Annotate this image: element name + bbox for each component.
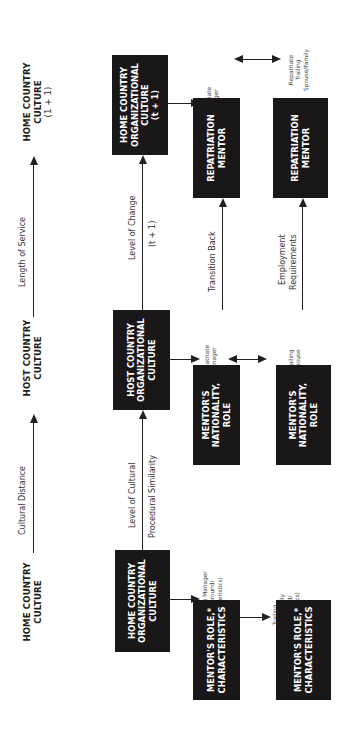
mentor-role-box-2: MENTOR'S ROLE,* CHARACTERISTICS [276,600,331,700]
time-plus-one-label: (t + 1) [148,221,158,247]
employment-requirements-arrow [302,206,303,310]
mentor-nat-2-line2: NATIONALITY, [298,383,308,447]
host-org-line3: CULTURE [147,339,157,381]
org-to-expat-arrow [170,599,192,600]
length-of-service-arrow [33,165,34,317]
requirements-label: Requirements [289,234,299,290]
cultural-distance-label: Cultural Distance [18,466,28,535]
mentor-role-2-line2: CHARACTERISTICS [304,607,314,694]
expatriate-mentoring-diagram: HOME COUNTRY CULTURE Cultural Distance H… [0,0,349,740]
home-org-next-line4: (t + 1) [150,90,160,120]
arrowhead-down-icon [191,356,200,364]
host-country-culture: HOST COUNTRY CULTURE [22,312,43,404]
home-org-next-line3: CULTURE [140,84,150,126]
arrowhead-down-icon [272,56,281,64]
home-country-culture: HOME COUNTRY CULTURE [22,556,43,648]
employment-label: Employment [278,234,288,285]
home-org-culture-box: HOME COUNTRY ORGANIZATIONAL CULTURE [115,550,170,652]
arrowhead-right-icon [219,198,227,207]
level-of-change-label: Level of Change [128,195,138,260]
mentor-role-2-line1: MENTOR'S ROLE,* [293,608,303,692]
transition-back-arrow [222,206,223,310]
mentor-role-1-line2: CHARACTERISTICS [217,607,227,694]
arrowhead-right-icon [30,156,38,165]
host-org-line1: HOST COUNTRY [126,323,136,397]
arrowhead-right-icon [139,155,147,164]
length-of-service-label: Length of Service [18,217,28,287]
arrowhead-right-icon [30,414,38,423]
arrowhead-right-icon [299,198,307,207]
repatriation-2-line2: MENTOR [301,128,311,168]
mentor-nat-1-line2: NATIONALITY, [211,383,221,447]
home-org-line1: HOME COUNTRY [127,563,137,639]
home-org-line2: ORGANIZATIONAL [137,559,147,643]
host-org-culture-box: HOST COUNTRY ORGANIZATIONAL CULTURE [113,310,170,410]
mentor-nat-2-line3: ROLE [309,403,319,428]
arrowhead-right-icon [139,410,147,419]
home-country-culture-next: HOME COUNTRY CULTURE (1 + 1) [22,56,54,148]
arrowhead-up-icon [234,56,243,64]
home-culture-next-line1: HOME COUNTRY [22,56,33,148]
mentor-nationality-box-1: MENTOR'S NATIONALITY, ROLE [193,365,240,465]
procedural-similarity-arrow [142,418,143,550]
home-culture-next-line2: CULTURE [33,56,44,148]
host-org-line2: ORGANIZATIONAL [136,318,146,402]
home-org-line3: CULTURE [148,580,158,622]
arrowhead-down-icon [262,614,271,622]
host-culture-line1: HOST COUNTRY [22,312,33,404]
cultural-distance-arrow [33,423,34,553]
repatriation-2-line1: REPATRIATION [290,114,300,181]
mentor-nat-1-line3: ROLE [222,403,232,428]
home-culture-line2: CULTURE [33,556,44,648]
home-org-next-to-repatriate-arrow [168,103,192,104]
home-org-next-line2: ORGANIZATIONAL [130,63,140,147]
mentor-nat-1-line1: MENTOR'S [201,391,211,440]
repatriation-1-line1: REPATRIATION [206,114,216,181]
host-culture-line2: CULTURE [33,312,44,404]
mentor-role-box-1: MENTOR'S ROLE,* CHARACTERISTICS [193,600,240,700]
mentor-role-1-line1: MENTOR'S ROLE,* [206,608,216,692]
mentor-nationality-box-2: MENTOR'S NATIONALITY, ROLE [276,365,331,465]
transition-back-label: Transition Back [208,231,218,292]
repatriation-1-line2: MENTOR [217,128,227,168]
repatriation-mentor-box-2: REPATRIATION MENTOR [273,98,328,198]
mentor-nat-2-line1: MENTOR'S [288,391,298,440]
home-org-culture-next-box: HOME COUNTRY ORGANIZATIONAL CULTURE (t +… [112,55,168,155]
home-org-next-line1: HOME COUNTRY [119,67,129,143]
repatriation-mentor-box-1: REPATRIATION MENTOR [193,98,240,198]
level-of-cultural-label: Level of Cultural [128,463,138,528]
home-culture-line1: HOME COUNTRY [22,556,33,648]
level-of-change-arrow [142,163,143,310]
host-org-to-expat-arrow [170,359,192,360]
arrowhead-up-icon [228,356,237,364]
home-culture-next-line3: (1 + 1) [43,56,54,148]
arrowhead-down-icon [258,356,267,364]
procedural-similarity-label: Procedural Similarity [148,455,158,538]
